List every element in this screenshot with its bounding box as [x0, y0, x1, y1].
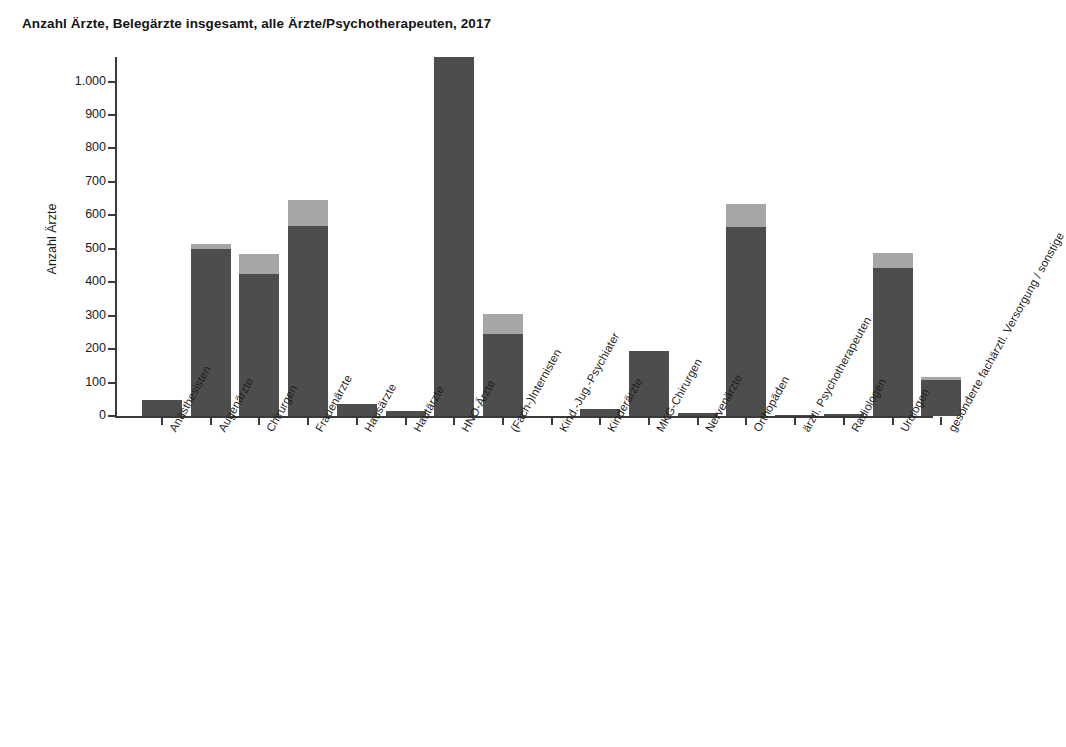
y-tick-1000: [108, 81, 117, 83]
bar-segment-top: [873, 253, 913, 268]
y-tick-200: [108, 348, 117, 350]
x-tick-7: [502, 417, 504, 425]
x-tick-5: [405, 417, 407, 425]
bar-segment-top: [726, 204, 766, 227]
bar-6[interactable]: [434, 57, 474, 416]
x-tick-6: [453, 417, 455, 425]
y-tick-label: 0: [44, 408, 106, 422]
y-tick-label: 200: [44, 341, 106, 355]
y-tick-900: [108, 114, 117, 116]
y-tick-label: 700: [44, 174, 106, 188]
x-tick-12: [745, 417, 747, 425]
y-tick-label: 400: [44, 274, 106, 288]
y-tick-500: [108, 248, 117, 250]
x-tick-8: [551, 417, 553, 425]
bar-3[interactable]: [288, 200, 328, 416]
y-tick-100: [108, 382, 117, 384]
x-tick-1: [210, 417, 212, 425]
bar-segment-top: [483, 314, 523, 334]
y-tick-700: [108, 181, 117, 183]
bar-segment-top: [288, 200, 328, 226]
x-tick-16: [940, 417, 942, 425]
x-tick-0: [161, 417, 163, 425]
y-tick-400: [108, 281, 117, 283]
x-tick-13: [794, 417, 796, 425]
y-tick-label: 300: [44, 308, 106, 322]
x-tick-3: [307, 417, 309, 425]
y-tick-label: 100: [44, 375, 106, 389]
bar-segment-top: [239, 254, 279, 274]
y-tick-800: [108, 147, 117, 149]
y-tick-600: [108, 214, 117, 216]
y-tick-label: 600: [44, 207, 106, 221]
x-tick-15: [892, 417, 894, 425]
x-tick-2: [258, 417, 260, 425]
x-label-16: gesonderte fachärztl. Versorgung / sonst…: [946, 230, 1066, 434]
y-tick-label: 900: [44, 107, 106, 121]
bar-7[interactable]: [483, 314, 523, 416]
y-tick-label: 500: [44, 241, 106, 255]
y-tick-label: 800: [44, 140, 106, 154]
chart-title: Anzahl Ärzte, Belegärzte insgesamt, alle…: [22, 16, 491, 31]
y-tick-0: [108, 415, 117, 417]
x-tick-14: [843, 417, 845, 425]
x-tick-10: [648, 417, 650, 425]
x-tick-11: [697, 417, 699, 425]
y-tick-label: 1.000: [44, 74, 106, 88]
bar-segment-base: [434, 57, 474, 416]
y-axis-line: [115, 57, 117, 417]
x-tick-4: [356, 417, 358, 425]
y-tick-300: [108, 315, 117, 317]
bar-segment-base: [483, 334, 523, 416]
x-tick-9: [599, 417, 601, 425]
